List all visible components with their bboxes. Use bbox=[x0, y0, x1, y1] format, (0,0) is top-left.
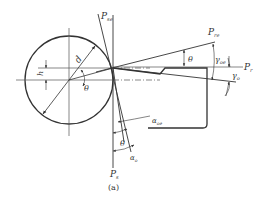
theta-re-label: θ bbox=[188, 55, 193, 64]
theta-s-label: θ bbox=[120, 139, 125, 148]
tool-geometry-diagram: h d θ Pse Pre Pr θ γoe γo αoe θ αo Ps (a… bbox=[0, 0, 266, 201]
alpha-o-label: αo bbox=[130, 154, 138, 163]
theta-center-label: θ bbox=[84, 84, 89, 93]
p-s-label: Ps bbox=[109, 169, 119, 180]
p-se-line bbox=[98, 14, 131, 152]
gamma-oe-label: γoe bbox=[215, 55, 226, 65]
alpha-oe-label: αoe bbox=[152, 117, 162, 126]
gamma-oe-arc bbox=[212, 44, 214, 80]
p-re-label: Pre bbox=[207, 27, 219, 38]
theta-s-arc bbox=[113, 129, 127, 133]
gamma-o-label: γo bbox=[232, 71, 240, 81]
p-r-label: Pr bbox=[243, 62, 253, 73]
p-se-label: Pse bbox=[100, 11, 113, 22]
figure-caption: (a) bbox=[108, 183, 119, 192]
h-label: h bbox=[36, 71, 45, 76]
